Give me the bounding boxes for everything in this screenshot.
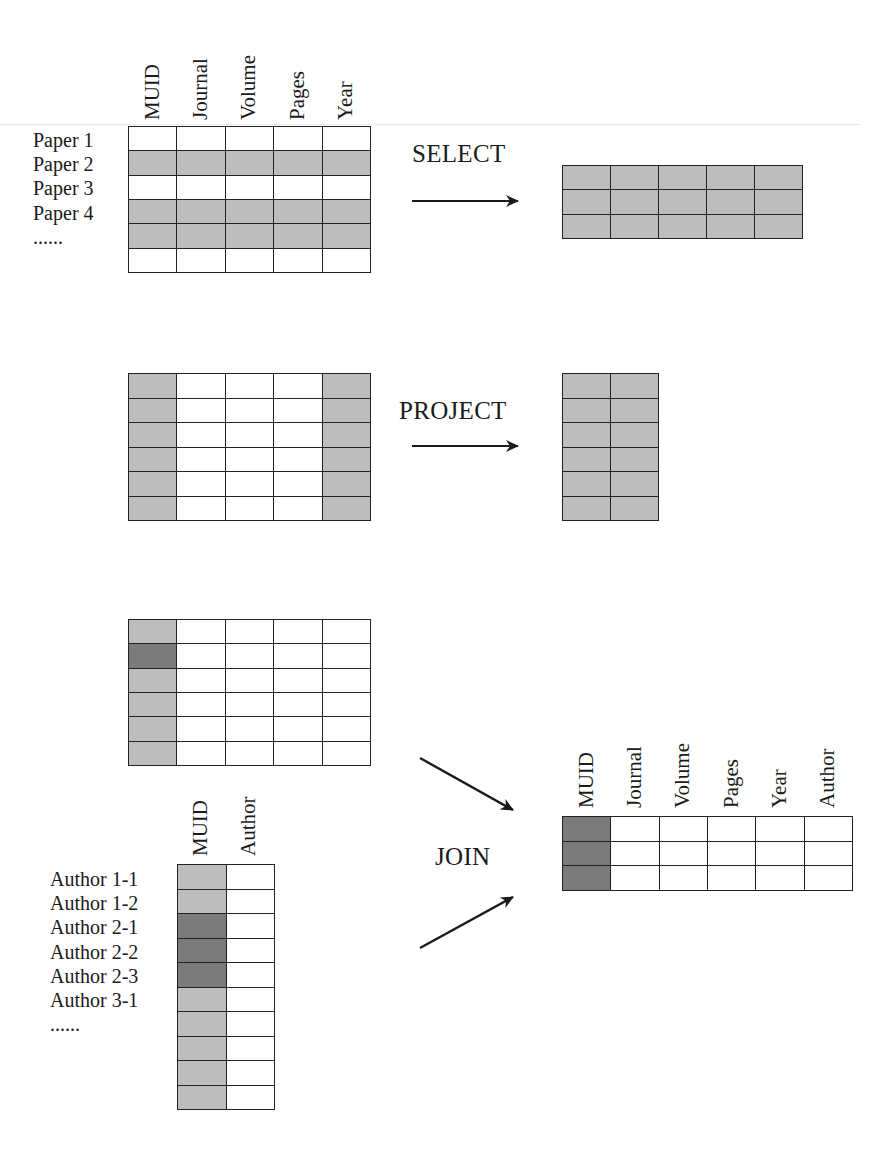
arrows-layer	[0, 0, 893, 1149]
join-arrow-bottom-icon	[420, 897, 513, 948]
join-arrow-top-icon	[420, 758, 513, 810]
